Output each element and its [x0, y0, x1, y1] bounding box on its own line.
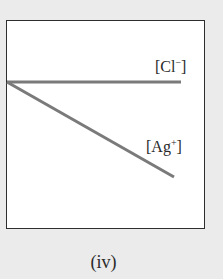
series-lines	[0, 0, 223, 279]
figure-caption: (iv)	[0, 252, 207, 273]
ag-label: [Ag+]	[146, 138, 182, 155]
cl-label: [Cl−]	[155, 58, 186, 75]
ag-line	[7, 82, 174, 177]
